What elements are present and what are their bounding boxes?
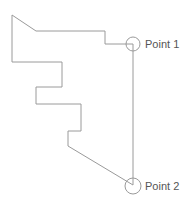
point-2-label: Point 2 xyxy=(145,180,179,192)
outline-path xyxy=(12,15,133,185)
point-1-label: Point 1 xyxy=(145,38,179,50)
diagram-canvas: Point 1 Point 2 xyxy=(0,0,194,203)
